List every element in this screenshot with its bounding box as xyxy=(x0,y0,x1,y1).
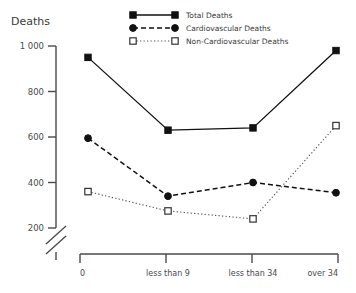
legend-label: Total Deaths xyxy=(185,11,233,20)
series-non-cardiovascular-deaths xyxy=(85,122,339,222)
data-point-marker xyxy=(333,47,339,53)
y-tick-label: 400 xyxy=(28,178,44,188)
series-line xyxy=(88,126,336,219)
x-axis-category-label: 0 xyxy=(80,269,85,278)
line-chart: Deaths 1 000800600400200 0less than 9les… xyxy=(0,0,356,293)
legend-item: Non-Cardiovascular Deaths xyxy=(130,37,289,46)
data-point-marker xyxy=(85,188,91,194)
chart-canvas: Deaths 1 000800600400200 0less than 9les… xyxy=(0,0,356,293)
data-point-marker xyxy=(85,135,92,142)
data-point-marker xyxy=(250,125,256,131)
series-total-deaths xyxy=(85,47,339,133)
series-line xyxy=(88,138,336,196)
y-tick-label: 1 000 xyxy=(20,41,44,51)
y-tick-label: 600 xyxy=(28,132,44,142)
series-cardiovascular-deaths xyxy=(85,135,340,200)
legend-label: Non-Cardiovascular Deaths xyxy=(186,37,289,46)
x-axis-category-label: over 34 xyxy=(307,269,338,278)
data-point-marker xyxy=(130,38,136,44)
data-point-marker xyxy=(165,208,171,214)
x-axis-labels: 0less than 9less than 34over 34 xyxy=(80,269,338,278)
y-axis-ticks: 1 000800600400200 xyxy=(20,41,56,233)
chart-legend: Total DeathsCardiovascular DeathsNon-Car… xyxy=(130,11,289,46)
legend-item: Cardiovascular Deaths xyxy=(130,24,271,33)
data-point-marker xyxy=(130,25,137,32)
y-tick-label: 200 xyxy=(28,223,44,233)
data-series-layer xyxy=(85,47,340,222)
x-axis-category-label: less than 9 xyxy=(146,269,190,278)
x-axis-category-label: less than 34 xyxy=(229,269,278,278)
data-point-marker xyxy=(172,25,179,32)
data-point-marker xyxy=(250,179,257,186)
legend-label: Cardiovascular Deaths xyxy=(186,24,271,33)
series-line xyxy=(88,51,336,131)
data-point-marker xyxy=(172,38,178,44)
data-point-marker xyxy=(165,127,171,133)
data-point-marker xyxy=(333,189,340,196)
data-point-marker xyxy=(130,12,136,18)
data-point-marker xyxy=(333,122,339,128)
data-point-marker xyxy=(172,12,178,18)
y-axis-break-icon xyxy=(46,226,66,260)
y-axis-title: Deaths xyxy=(11,15,50,28)
y-tick-label: 800 xyxy=(28,87,44,97)
legend-item: Total Deaths xyxy=(130,11,233,20)
data-point-marker xyxy=(250,216,256,222)
x-axis xyxy=(80,254,338,263)
data-point-marker xyxy=(165,193,172,200)
data-point-marker xyxy=(85,54,91,60)
